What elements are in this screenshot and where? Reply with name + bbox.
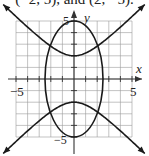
x-axis-arrow-icon <box>135 76 142 82</box>
x-min-tick-label: −5 <box>10 84 24 99</box>
y-axis-label: y <box>82 10 90 25</box>
x-max-tick-label: 5 <box>130 84 137 99</box>
y-min-tick-label: −5 <box>54 133 67 147</box>
y-axis-arrow-icon <box>71 10 77 18</box>
y-max-tick-label: 5 <box>63 14 69 28</box>
x-axis-label: x <box>135 61 142 76</box>
conic-graph: y x −5 5 5 −5 <box>0 0 149 156</box>
